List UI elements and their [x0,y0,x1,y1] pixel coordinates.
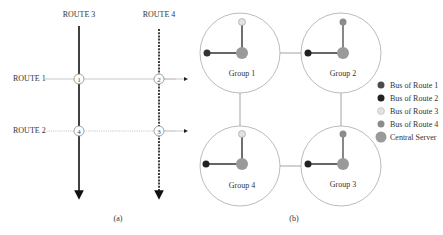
legend-server-icon [376,132,387,143]
intersection-4: 4 [74,126,84,136]
svg-text:3: 3 [157,128,161,136]
legend-route4-icon [378,121,385,128]
legend-route2-label: Bus of Route 2 [390,94,438,103]
group-1: Group 1 [200,13,280,93]
legend-server-label: Central Server [390,133,437,142]
legend: Bus of Route 1 Bus of Route 2 Bus of Rou… [376,81,439,143]
svg-text:4: 4 [77,128,81,136]
bus-route2-icon [203,161,210,168]
legend-route3-icon [378,108,385,115]
central-server-icon [236,47,248,59]
intersection-2: 2 [154,74,164,84]
group-1-label: Group 1 [229,69,255,78]
bus-route3-icon [239,19,246,26]
bus-route2-icon [204,50,211,57]
central-server-icon [337,158,349,170]
legend-route1-label: Bus of Route 1 [390,81,438,90]
intersection-3: 3 [154,126,164,136]
central-server-icon [236,158,248,170]
panel-b: Group 1 Group 2 Group 4 [200,13,438,223]
central-server-icon [337,47,349,59]
route-4-label: ROUTE 4 [143,10,176,19]
legend-route4-label: Bus of Route 4 [390,120,438,129]
intersection-1: 1 [74,74,84,84]
route-2-label: ROUTE 2 [13,126,46,135]
caption-a: (a) [114,214,123,223]
route-3-label: ROUTE 3 [63,10,96,19]
route-1-label: ROUTE 1 [13,74,46,83]
bus-route4-icon [340,131,347,138]
bus-route4-icon [340,19,347,26]
group-3-label: Group 3 [330,180,356,189]
group-4-label: Group 4 [229,181,255,190]
svg-text:2: 2 [157,76,161,84]
legend-route1-icon [378,82,385,89]
caption-b: (b) [289,214,299,223]
group-3: Group 3 [301,126,381,206]
panel-a: ROUTE 3 ROUTE 4 ROUTE 1 ROUTE 2 1 2 3 4 … [13,10,186,223]
bus-route2-icon [305,50,312,57]
bus-route2-icon [305,161,312,168]
legend-route2-icon [378,95,385,102]
group-4: Group 4 [200,126,280,206]
bus-route3-icon [239,131,246,138]
svg-text:1: 1 [77,76,81,84]
legend-route3-label: Bus of Route 3 [390,107,438,116]
group-2: Group 2 [301,13,381,93]
group-2-label: Group 2 [330,69,356,78]
figure: ROUTE 3 ROUTE 4 ROUTE 1 ROUTE 2 1 2 3 4 … [0,0,443,235]
